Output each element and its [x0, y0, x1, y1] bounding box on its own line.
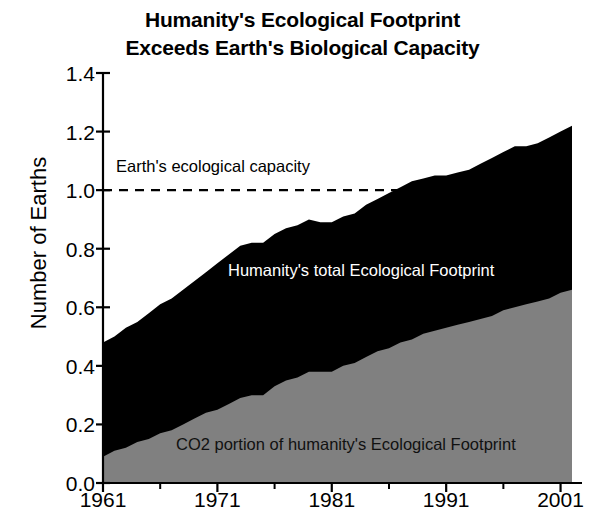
x-tick-label: 1971: [172, 489, 262, 510]
annotation-capacity: Earth's ecological capacity: [116, 158, 310, 175]
x-tick-label: 1991: [401, 489, 491, 510]
x-tick-label: 1961: [58, 489, 148, 510]
annotation-co2-portion: CO2 portion of humanity's Ecological Foo…: [176, 436, 516, 453]
x-tick-label: 2001: [516, 489, 605, 510]
annotation-total-footprint: Humanity's total Ecological Footprint: [228, 262, 494, 279]
chart-figure: Humanity's Ecological Footprint Exceeds …: [0, 0, 605, 526]
x-tick-label: 1981: [287, 489, 377, 510]
series-layer: [103, 126, 572, 483]
